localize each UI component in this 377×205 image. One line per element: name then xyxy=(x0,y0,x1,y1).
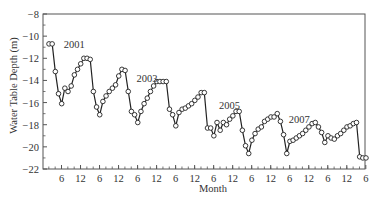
y-tick-label: −8 xyxy=(28,9,39,20)
data-point-marker xyxy=(69,84,74,89)
year-annotation: 2005 xyxy=(219,100,240,111)
data-point-marker xyxy=(135,120,140,125)
data-point-marker xyxy=(224,122,229,127)
data-point-marker xyxy=(113,83,118,88)
data-point-marker xyxy=(259,125,264,130)
data-point-marker xyxy=(126,89,131,94)
data-point-marker xyxy=(202,90,207,95)
data-point-marker xyxy=(101,99,106,104)
data-point-marker xyxy=(139,109,144,114)
year-annotation: 2007 xyxy=(289,114,310,125)
y-tick-label: −10 xyxy=(23,31,39,42)
plot-area: −8−10−12−14−16−18−20−2261261261261261261… xyxy=(0,0,377,205)
data-point-marker xyxy=(97,112,102,117)
data-point-marker xyxy=(322,140,327,145)
x-tick-label: 12 xyxy=(304,173,315,184)
y-axis-label: Water Table Depth (m) xyxy=(8,21,19,151)
data-point-marker xyxy=(243,143,248,148)
data-point-marker xyxy=(275,111,280,116)
data-point-marker xyxy=(72,73,77,78)
data-point-marker xyxy=(164,79,169,84)
data-point-marker xyxy=(278,119,283,124)
data-point-marker xyxy=(196,95,201,100)
data-point-marker xyxy=(142,101,147,106)
data-point-marker xyxy=(253,131,258,136)
data-point-marker xyxy=(174,124,179,129)
data-point-marker xyxy=(145,96,150,101)
data-point-marker xyxy=(59,101,64,106)
y-tick-label: −14 xyxy=(23,75,40,86)
y-tick-label: −22 xyxy=(23,164,39,175)
data-point-marker xyxy=(116,74,121,79)
x-tick-label: 12 xyxy=(75,173,86,184)
y-tick-label: −18 xyxy=(23,120,39,131)
data-point-marker xyxy=(313,120,318,125)
data-point-marker xyxy=(91,89,96,94)
data-point-marker xyxy=(53,69,58,74)
data-point-marker xyxy=(78,62,83,67)
x-tick-label: 6 xyxy=(363,173,368,184)
data-point-marker xyxy=(56,91,61,96)
x-tick-label: 12 xyxy=(113,173,124,184)
x-axis-label: Month xyxy=(183,183,243,194)
x-tick-label: 6 xyxy=(325,173,330,184)
data-point-marker xyxy=(123,68,128,73)
data-point-marker xyxy=(364,156,369,161)
x-tick-label: 6 xyxy=(59,173,64,184)
x-tick-label: 6 xyxy=(287,173,292,184)
data-point-marker xyxy=(94,105,99,110)
data-point-marker xyxy=(132,112,137,117)
y-tick-label: −12 xyxy=(23,53,39,64)
data-point-marker xyxy=(281,132,286,137)
water-table-chart: −8−10−12−14−16−18−20−2261261261261261261… xyxy=(0,0,377,205)
data-point-marker xyxy=(148,89,153,94)
data-point-marker xyxy=(218,128,223,133)
x-tick-label: 6 xyxy=(173,173,178,184)
x-tick-label: 12 xyxy=(265,173,276,184)
data-point-marker xyxy=(354,120,359,125)
data-point-marker xyxy=(240,128,245,133)
data-point-marker xyxy=(319,130,324,135)
x-tick-label: 6 xyxy=(249,173,254,184)
x-tick-label: 12 xyxy=(151,173,162,184)
data-point-marker xyxy=(66,89,71,94)
data-point-marker xyxy=(75,67,80,72)
data-point-marker xyxy=(246,151,251,156)
data-point-marker xyxy=(284,151,289,156)
data-point-marker xyxy=(231,114,236,119)
x-tick-label: 6 xyxy=(97,173,102,184)
data-point-marker xyxy=(88,57,93,62)
data-point-marker xyxy=(50,42,55,47)
data-point-marker xyxy=(208,126,213,131)
data-point-marker xyxy=(170,112,175,117)
data-point-marker xyxy=(215,120,220,125)
data-point-marker xyxy=(151,84,156,89)
data-point-marker xyxy=(167,107,172,112)
data-point-marker xyxy=(212,133,217,138)
y-tick-label: −20 xyxy=(23,142,39,153)
data-point-marker xyxy=(250,138,255,143)
data-point-marker xyxy=(316,125,321,130)
x-tick-label: 6 xyxy=(135,173,140,184)
year-annotation: 2003 xyxy=(137,73,158,84)
data-point-marker xyxy=(104,94,109,99)
data-line xyxy=(49,44,366,158)
x-tick-label: 12 xyxy=(342,173,353,184)
year-annotation: 2001 xyxy=(64,39,85,50)
y-tick-label: −16 xyxy=(23,98,39,109)
